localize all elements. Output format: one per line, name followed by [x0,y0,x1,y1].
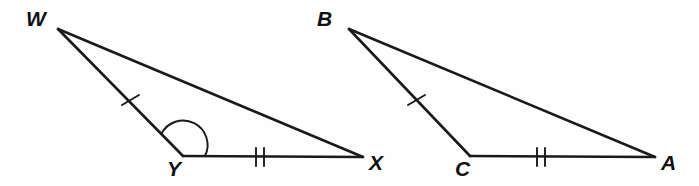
side-wy [58,29,183,156]
geometry-figure: W Y X B C A [0,0,699,186]
triangle-wyx [58,29,363,166]
vertex-label-x: X [369,152,383,173]
side-wx [58,29,363,157]
side-ba [349,29,655,157]
triangle-bca [349,29,655,166]
vertex-label-b: B [317,8,332,29]
tick-single-bc [408,95,425,105]
side-ca [470,156,655,157]
vertex-label-a: A [661,152,676,173]
vertex-label-w: W [26,8,46,29]
vertex-label-y: Y [167,158,181,179]
figure-canvas [0,0,699,186]
angle-arc-y [161,121,207,156]
side-yx [183,156,363,157]
side-bc [349,29,470,156]
vertex-label-c: C [455,158,470,179]
